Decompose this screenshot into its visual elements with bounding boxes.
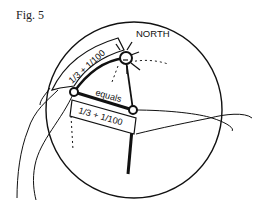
right-strand-1 [133,110,233,131]
right-vertex-marker [129,106,137,114]
right-strand-2 [136,114,252,134]
dotted-line-down [112,66,118,82]
left-strand-1 [17,90,58,198]
dotted-line-left-lower [71,116,73,150]
north-pole-marker [120,52,132,64]
dotted-line-right [130,60,168,64]
globe-diagram: NORTH 1/3 + 1/100 equals 1/3 + 1/100 [0,0,266,212]
north-label: NORTH [136,28,170,39]
left-vertex-marker [70,88,78,96]
